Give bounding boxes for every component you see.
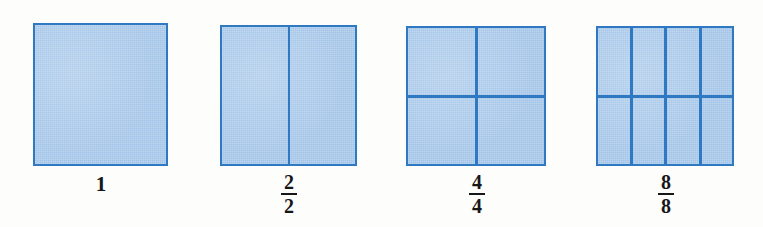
model-label-4: 44 bbox=[437, 172, 517, 217]
partition-line-vertical bbox=[288, 27, 290, 164]
model-label-1: 1 bbox=[61, 174, 141, 195]
fraction-models-figure: 1224488 bbox=[0, 0, 763, 227]
unit-square-2 bbox=[220, 25, 357, 166]
fraction-label: 22 bbox=[281, 172, 297, 217]
fraction-label: 88 bbox=[658, 172, 674, 217]
unit-square-4 bbox=[406, 26, 546, 166]
fraction-numerator: 4 bbox=[469, 172, 485, 193]
unit-square-8 bbox=[596, 26, 734, 166]
fraction-denominator: 2 bbox=[281, 195, 297, 216]
fraction-denominator: 4 bbox=[469, 195, 485, 216]
fraction-label: 44 bbox=[469, 172, 485, 217]
partition-line-horizontal bbox=[408, 95, 544, 98]
partition-line-horizontal bbox=[598, 95, 732, 98]
fraction-numerator: 8 bbox=[658, 172, 674, 193]
unit-square-1 bbox=[33, 23, 168, 166]
model-label-2: 22 bbox=[249, 172, 329, 217]
whole-number-label: 1 bbox=[96, 172, 107, 196]
fraction-denominator: 8 bbox=[658, 195, 674, 216]
model-label-8: 88 bbox=[626, 172, 706, 217]
fraction-numerator: 2 bbox=[281, 172, 297, 193]
